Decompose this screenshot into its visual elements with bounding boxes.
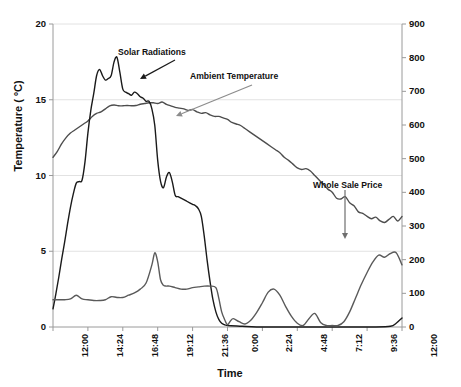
y-axis-right-tick-label: 200 xyxy=(409,254,435,265)
annotation-arrow-head xyxy=(342,233,348,239)
y-axis-right-tick-label: 500 xyxy=(409,153,435,164)
series-line xyxy=(53,57,402,327)
y-axis-right-tick-label: 700 xyxy=(409,85,435,96)
y-axis-right-tick-label: 800 xyxy=(409,52,435,63)
series-line xyxy=(53,252,402,326)
y-axis-right-tick-label: 300 xyxy=(409,220,435,231)
x-axis-tick-label: 12:00 xyxy=(429,334,439,357)
y-axis-left-tick-label: 15 xyxy=(22,94,46,105)
annotation-label: Solar Radiations xyxy=(118,47,186,57)
y-axis-right-tick-label: 100 xyxy=(409,287,435,298)
y-axis-left-tick-label: 20 xyxy=(22,18,46,29)
y-axis-right-tick-label: 400 xyxy=(409,186,435,197)
annotation-arrow-line xyxy=(145,60,175,76)
x-axis-tick-label: 4:48 xyxy=(319,334,329,352)
series-line xyxy=(53,102,402,222)
x-axis-tick-label: 12:00 xyxy=(80,334,90,357)
annotation-label: Ambient Temperature xyxy=(190,71,278,81)
x-axis-tick-label: 0:00 xyxy=(250,334,260,352)
x-axis-tick-label: 16:48 xyxy=(150,334,160,357)
y-axis-left-tick-label: 10 xyxy=(22,170,46,181)
y-axis-right-tick-label: 900 xyxy=(409,18,435,29)
x-axis-tick-label: 21:36 xyxy=(220,334,230,357)
y-axis-right-tick-label: 600 xyxy=(409,119,435,130)
chart-container: Temperature ( ºC) Whole Sale Price ($ /M… xyxy=(0,0,461,387)
x-axis-tick-label: 2:24 xyxy=(284,334,294,352)
plot-area xyxy=(0,0,461,387)
annotation-label: Whole Sale Price xyxy=(313,180,382,190)
y-axis-left-tick-label: 5 xyxy=(22,245,46,256)
y-axis-right-tick-label: 0 xyxy=(409,321,435,332)
x-axis-tick-label: 9:36 xyxy=(389,334,399,352)
y-axis-left-tick-label: 0 xyxy=(22,321,46,332)
x-axis-tick-label: 7:12 xyxy=(354,334,364,352)
x-axis-tick-label: 14:24 xyxy=(115,334,125,357)
x-axis-tick-label: 19:12 xyxy=(185,334,195,357)
